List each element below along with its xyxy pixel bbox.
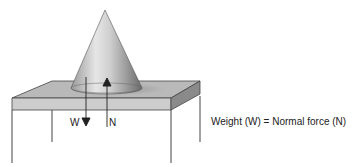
table-front-edge [12, 98, 171, 110]
cone-on-table-diagram [0, 0, 359, 167]
arrowhead-down-icon [82, 118, 90, 126]
normal-force-label: N [109, 118, 116, 128]
weight-label: W [70, 118, 79, 128]
caption: Weight (W) = Normal force (N) [211, 117, 346, 127]
